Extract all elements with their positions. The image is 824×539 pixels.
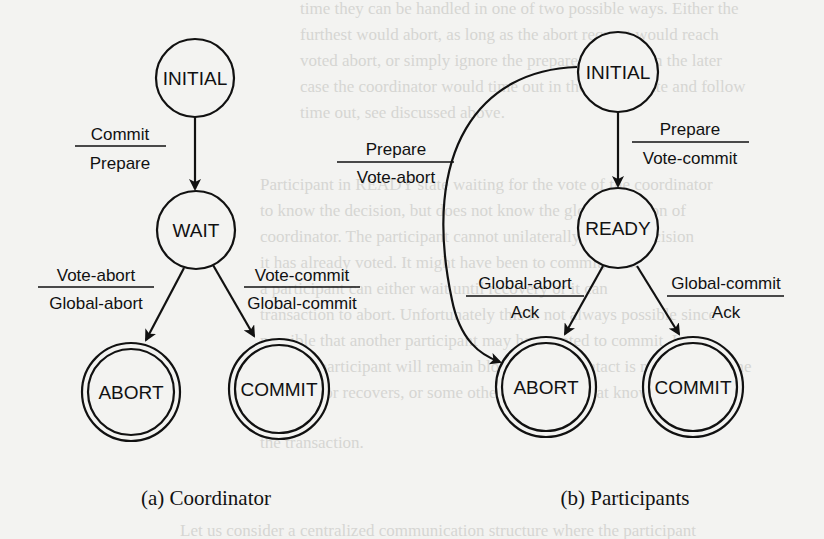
state-label-commit: COMMIT: [654, 377, 731, 398]
state-label-wait: WAIT: [173, 220, 220, 241]
bg-line: furthest would abort, as long as the abo…: [300, 25, 719, 44]
transition-action: Global-abort: [49, 294, 143, 313]
caption-participants: (b) Participants: [561, 486, 690, 510]
state-label-commit: COMMIT: [240, 379, 317, 400]
transition-action: Global-commit: [247, 294, 357, 313]
transition-event: Global-abort: [478, 274, 572, 293]
bg-line: time they can be handled in one of two p…: [300, 0, 739, 18]
transition-event: Prepare: [366, 140, 426, 159]
transition-event: Commit: [91, 125, 150, 144]
bg-line: possible that another participant may ha…: [260, 331, 686, 350]
bg-line: time out, see discussed above.: [300, 103, 505, 122]
bg-line: Participant in READY state waiting for t…: [260, 175, 713, 194]
arrow-wait-to-abort: [146, 268, 184, 340]
state-label-ready: READY: [585, 218, 651, 239]
transition-action: Vote-commit: [643, 149, 738, 168]
transition-action: Vote-abort: [357, 168, 436, 187]
state-label-initial: INITIAL: [163, 68, 227, 89]
bg-line: case the coordinator would time out in t…: [300, 77, 746, 96]
transition-action: Prepare: [90, 154, 150, 173]
two-phase-commit-diagram: time they can be handled in one of two p…: [0, 0, 824, 539]
transition-event: Prepare: [660, 120, 720, 139]
state-label-abort: ABORT: [513, 377, 579, 398]
transition-event: Global-commit: [671, 274, 781, 293]
bg-line: Let us consider a centralized communicat…: [180, 521, 696, 539]
transition-event: Vote-abort: [57, 266, 136, 285]
state-label-abort: ABORT: [98, 382, 164, 403]
state-label-initial: INITIAL: [586, 62, 650, 83]
transition-action: Ack: [511, 303, 540, 322]
transition-action: Ack: [712, 303, 741, 322]
transition-event: Vote-commit: [255, 266, 350, 285]
caption-coordinator: (a) Coordinator: [141, 486, 271, 510]
bg-line: voted abort, or simply ignore the prepar…: [300, 51, 722, 70]
